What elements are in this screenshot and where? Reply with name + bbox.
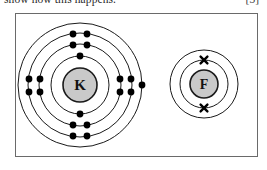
diagram-border-box: [15, 13, 258, 157]
question-prompt-text: show how this happens.: [4, 0, 116, 5]
question-text-strip: show how this happens. [3]: [0, 0, 267, 13]
question-marks-label: [3]: [246, 0, 259, 5]
